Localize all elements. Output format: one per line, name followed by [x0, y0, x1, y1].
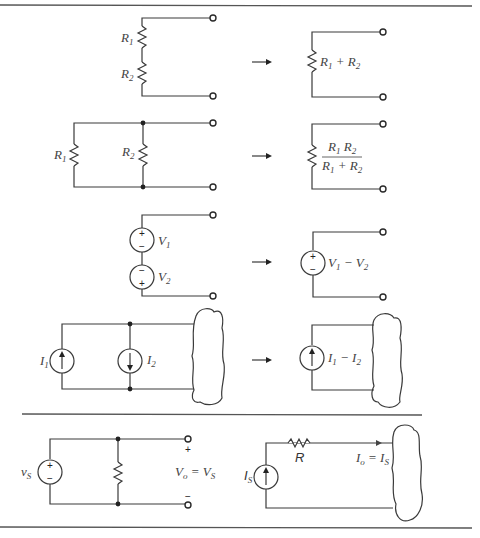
equivalence-arrow-icon	[252, 357, 272, 363]
equivalence-arrow-icon	[252, 153, 272, 159]
svg-text:+: +	[310, 251, 316, 262]
section-divider	[22, 414, 422, 415]
current-direction-arrow-icon	[376, 440, 382, 446]
current-source-series-element: IS R Io = IS	[244, 425, 422, 521]
terminal-icon	[380, 294, 386, 300]
r1-label: R1	[53, 147, 66, 164]
resistor-equivalent-icon	[308, 50, 316, 72]
series-resistors-left: R1 R2	[120, 15, 216, 99]
series-resistors-right: R1 + R2	[308, 29, 386, 100]
equivalence-arrow-icon	[252, 259, 272, 265]
terminal-icon	[185, 436, 191, 442]
svg-text:+: +	[139, 278, 145, 289]
vo-equals-vs-label: Vo = VS	[175, 464, 216, 481]
resistor-r2-icon	[138, 62, 146, 84]
parallel-current-sources-left: I1 I2	[39, 309, 224, 405]
terminal-icon	[380, 29, 386, 35]
terminal-icon	[210, 293, 216, 299]
i2-label: I2	[146, 352, 156, 369]
terminal-icon	[380, 186, 386, 192]
is-label: IS	[244, 468, 253, 485]
terminal-icon	[210, 15, 216, 21]
vs-label: vS	[21, 464, 32, 481]
series-voltage-sources-left: + − − + V1 V2	[130, 212, 216, 299]
load-network-blob-icon	[192, 309, 224, 405]
parallel-resistors-left: R1 R2	[53, 120, 216, 190]
resistor-r1-icon	[70, 144, 78, 166]
resistor-icon	[114, 462, 122, 484]
resistor-r1-icon	[138, 26, 146, 48]
terminal-icon	[185, 502, 191, 508]
svg-text:−: −	[47, 473, 53, 484]
svg-text:−: −	[185, 491, 191, 502]
r2-label: R2	[121, 144, 135, 161]
terminal-icon	[210, 212, 216, 218]
bottom-rule	[0, 527, 472, 528]
circuit-equivalents-figure: R1 R2 R1 + R2 R1 R2 R1 R2	[0, 0, 480, 538]
svg-text:+: +	[185, 444, 191, 455]
equivalence-arrow-icon	[252, 59, 272, 65]
terminal-icon	[210, 120, 216, 126]
resistor-r2-icon	[139, 144, 147, 166]
r1-plus-r2-label: R1 + R2	[319, 54, 361, 71]
r1-label: R1	[120, 30, 133, 47]
sum-denominator: R1 + R2	[321, 158, 363, 175]
v2-label: V2	[158, 269, 171, 286]
parallel-current-sources-right: I1 − I2	[300, 314, 402, 408]
terminal-icon	[380, 229, 386, 235]
i1-label: I1	[39, 353, 49, 370]
terminal-icon	[210, 184, 216, 190]
terminal-icon	[380, 121, 386, 127]
r2-label: R2	[120, 66, 134, 83]
terminal-icon	[380, 94, 386, 100]
top-rule	[0, 5, 472, 6]
load-network-blob-icon	[372, 314, 402, 408]
terminal-icon	[210, 93, 216, 99]
load-network-blob-icon	[392, 425, 422, 521]
svg-text:+: +	[47, 460, 53, 471]
svg-text:+: +	[139, 228, 145, 239]
series-voltage-sources-right: + − V1 − V2	[301, 229, 386, 300]
svg-text:−: −	[310, 264, 316, 275]
i1-minus-i2-label: I1 − I2	[327, 350, 361, 367]
svg-text:−: −	[139, 241, 145, 252]
svg-text:−: −	[139, 265, 145, 276]
parallel-resistors-right: R1 R2 R1 + R2	[308, 121, 386, 192]
v1-minus-v2-label: V1 − V2	[328, 255, 369, 272]
resistor-r-icon	[288, 439, 310, 447]
r-label: R	[295, 450, 304, 465]
resistor-equivalent-icon	[308, 145, 316, 167]
io-equals-is-label: Io = IS	[355, 450, 389, 467]
v1-label: V1	[158, 233, 170, 250]
voltage-source-parallel-element: + − + − vS Vo = VS	[21, 436, 216, 508]
product-numerator: R1 R2	[327, 139, 357, 156]
